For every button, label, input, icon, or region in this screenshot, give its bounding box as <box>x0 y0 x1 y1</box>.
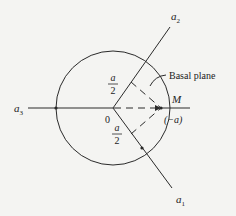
dashed-a1-half-to-m <box>131 108 161 134</box>
half-label-upper-num: a <box>111 72 116 83</box>
half-label-lower-den: 2 <box>115 135 120 146</box>
half-label-upper-den: 2 <box>111 85 116 96</box>
point-m <box>159 106 162 109</box>
point-a1-intersection <box>140 146 143 149</box>
label-a1: a1 <box>176 193 186 208</box>
axis-a2 <box>113 27 170 108</box>
half-label-lower-num: a <box>115 122 120 133</box>
label-a3: a3 <box>14 102 24 117</box>
label-basal-plane: Basal plane <box>169 70 216 81</box>
label-origin: 0 <box>105 114 110 125</box>
label-minus-a: (−a) <box>164 114 183 126</box>
point-a3-intersection <box>54 106 57 109</box>
label-m: M <box>171 93 182 105</box>
dashed-a2-half-to-m <box>131 82 161 108</box>
callout-leader <box>150 75 166 86</box>
label-a2: a2 <box>171 10 181 25</box>
diagram-canvas: a3 a2 a1 0 a 2 a 2 M (−a) Basal plane <box>0 0 236 216</box>
